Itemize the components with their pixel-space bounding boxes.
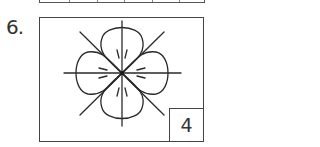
tick-mark	[137, 76, 145, 78]
answer-box: 4	[169, 108, 204, 142]
center-dot	[120, 71, 124, 75]
tick-mark	[125, 50, 127, 58]
answer-value: 4	[180, 114, 192, 136]
tick-mark	[117, 88, 119, 96]
tick-mark	[137, 68, 145, 70]
tick-mark	[117, 50, 119, 58]
tick-mark	[99, 76, 107, 78]
tick-mark	[125, 88, 127, 96]
tick-mark	[99, 68, 107, 70]
